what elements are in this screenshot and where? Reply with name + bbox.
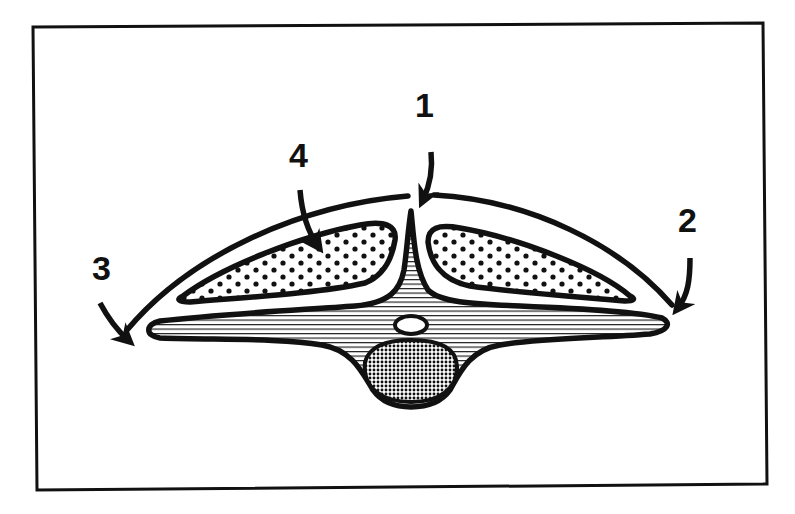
- arrow-1-icon: [423, 152, 432, 200]
- cross-section-diagram: 1 2 3 4: [0, 0, 795, 514]
- arrow-3-icon: [100, 303, 128, 340]
- small-white-oval: [395, 316, 427, 334]
- right-dotted-lobe: [428, 227, 633, 301]
- label-4: 4: [289, 136, 308, 174]
- arrow-2-icon: [678, 258, 690, 308]
- frame-border: [33, 23, 767, 490]
- label-3: 3: [92, 249, 111, 287]
- label-2: 2: [678, 201, 697, 239]
- crosshatched-oval: [365, 340, 457, 402]
- left-dotted-lobe: [179, 223, 395, 302]
- label-1: 1: [415, 86, 434, 124]
